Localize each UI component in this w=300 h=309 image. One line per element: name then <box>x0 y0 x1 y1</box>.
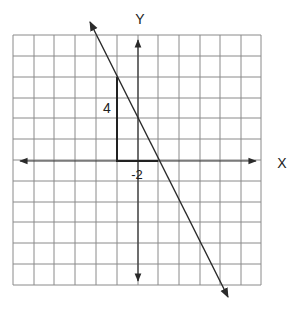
y-axis-label: Y <box>135 11 145 27</box>
run-label: -2 <box>131 167 143 182</box>
rise-label: 4 <box>103 100 111 116</box>
coordinate-plane: Y X 4 -2 <box>0 0 300 309</box>
x-axis-label: X <box>277 155 287 171</box>
